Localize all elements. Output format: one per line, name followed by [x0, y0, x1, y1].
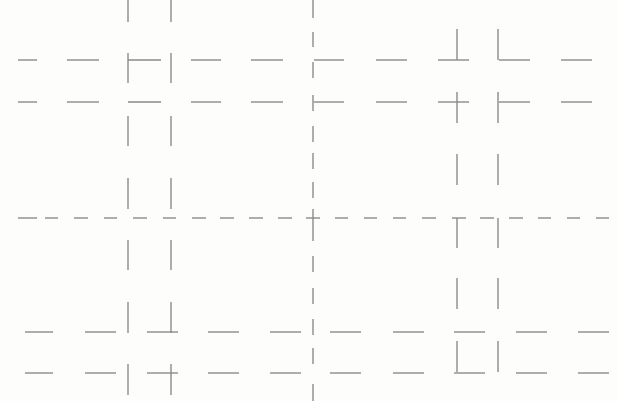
diagram-canvas: [0, 0, 617, 401]
line-fragment-diagram: [0, 0, 617, 401]
origin-cross-marker: [306, 211, 320, 225]
